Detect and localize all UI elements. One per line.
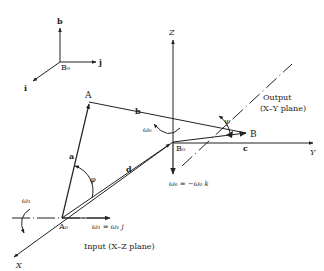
omega0-vector-label: ω₀ = −ω₀ k — [169, 181, 209, 188]
omega0-label: ω₀ — [143, 127, 152, 134]
x-axis — [14, 142, 173, 257]
output-plane-line — [182, 64, 292, 166]
spatial-linkage-diagram: b j i B₀ Z Y X A A₀ B B₀ a b c d φ ψ ω₀ … — [0, 0, 324, 271]
link-a — [62, 104, 89, 218]
omega1-label: ω₁ — [22, 198, 31, 205]
point-a0-label: A₀ — [59, 223, 68, 231]
point-b0-label: B₀ — [176, 145, 185, 153]
omega0-arc — [154, 124, 180, 134]
vector-b0-b — [173, 133, 246, 142]
link-d — [62, 144, 170, 218]
omega1-vector-label: ω₁ = ω₁ j — [92, 224, 124, 231]
reference-frame — [33, 28, 96, 81]
output-title: Output — [263, 94, 291, 102]
frame-j-label: j — [99, 58, 102, 66]
y-axis-label: Y — [310, 149, 315, 157]
link-d-label: d — [126, 165, 132, 173]
omega1-arc — [22, 209, 30, 233]
phi-label: φ — [90, 176, 96, 184]
point-a-label: A — [85, 91, 92, 100]
point-b-label: B — [250, 130, 257, 139]
output-plane-label: (X–Y plane) — [260, 105, 306, 113]
input-plane-label: Input (X–Z plane) — [84, 243, 155, 251]
z-axis-label: Z — [169, 29, 175, 37]
link-b-label: b — [135, 107, 141, 115]
psi-label: ψ — [224, 118, 230, 126]
link-a-label: a — [69, 152, 74, 160]
frame-origin-label: B₀ — [61, 64, 70, 72]
link-c-label: c — [243, 144, 248, 152]
frame-b-label: b — [57, 17, 63, 25]
x-axis-label: X — [16, 262, 22, 270]
diagram-lines — [0, 0, 324, 271]
frame-i-label: i — [24, 84, 27, 92]
